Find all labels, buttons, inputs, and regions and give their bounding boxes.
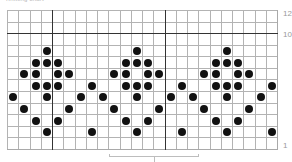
chart-cell <box>86 56 97 68</box>
chart-cell <box>176 114 187 126</box>
chart-cell <box>120 114 131 126</box>
chart-cell <box>165 22 176 34</box>
chart-cell <box>75 114 86 126</box>
chart-cell <box>7 114 18 126</box>
chart-cell <box>131 22 142 34</box>
chart-cell <box>30 68 41 80</box>
chart-cell <box>86 45 97 57</box>
chart-cell <box>165 79 176 91</box>
filled-circle-stitch-icon <box>245 70 253 78</box>
filled-circle-stitch-icon <box>133 59 141 67</box>
row-number-label: 12 <box>283 10 292 18</box>
chart-cell <box>153 68 164 80</box>
chart-cell <box>243 103 254 115</box>
chart-cell <box>108 68 119 80</box>
chart-cell <box>7 68 18 80</box>
chart-cell <box>97 33 108 45</box>
chart-cell <box>221 91 232 103</box>
chart-cell <box>210 91 221 103</box>
chart-cell <box>153 79 164 91</box>
chart-cell <box>176 68 187 80</box>
chart-cell <box>142 103 153 115</box>
chart-cell <box>97 56 108 68</box>
chart-cell <box>198 137 209 149</box>
chart-cell <box>210 126 221 138</box>
chart-cell <box>41 56 52 68</box>
chart-cell <box>232 22 243 34</box>
filled-circle-stitch-icon <box>20 70 28 78</box>
filled-circle-stitch-icon <box>189 93 197 101</box>
chart-cell <box>255 126 266 138</box>
filled-circle-stitch-icon <box>178 82 186 90</box>
filled-circle-stitch-icon <box>167 93 175 101</box>
chart-cell <box>7 33 18 45</box>
chart-cell <box>232 126 243 138</box>
chart-cell <box>97 68 108 80</box>
chart-cell <box>176 126 187 138</box>
chart-cell <box>243 91 254 103</box>
chart-cell <box>165 137 176 149</box>
filled-circle-stitch-icon <box>268 82 276 90</box>
chart-cell <box>165 126 176 138</box>
chart-cell <box>108 103 119 115</box>
chart-cell <box>255 114 266 126</box>
filled-circle-stitch-icon <box>155 70 163 78</box>
filled-circle-stitch-icon <box>223 128 231 136</box>
chart-cell <box>243 79 254 91</box>
chart-cell <box>63 45 74 57</box>
chart-cell <box>221 68 232 80</box>
filled-circle-stitch-icon <box>133 128 141 136</box>
chart-cell <box>52 56 63 68</box>
filled-circle-stitch-icon <box>77 93 85 101</box>
chart-cell <box>131 103 142 115</box>
chart-cell <box>142 68 153 80</box>
chart-cell <box>176 103 187 115</box>
chart-cell <box>41 33 52 45</box>
chart-cell <box>153 126 164 138</box>
chart-cell <box>30 103 41 115</box>
chart-cell <box>86 126 97 138</box>
chart-cell <box>63 137 74 149</box>
chart-cell <box>41 22 52 34</box>
chart-cell <box>86 103 97 115</box>
chart-cell <box>7 137 18 149</box>
chart-cell <box>142 56 153 68</box>
bold-vertical-line <box>165 10 166 150</box>
filled-circle-stitch-icon <box>54 70 62 78</box>
chart-cell <box>255 45 266 57</box>
chart-cell <box>221 126 232 138</box>
chart-cell <box>75 10 86 22</box>
chart-cell <box>198 68 209 80</box>
chart-cell <box>198 56 209 68</box>
filled-circle-stitch-icon <box>212 82 220 90</box>
chart-cell <box>210 22 221 34</box>
chart-cell <box>142 33 153 45</box>
chart-cell <box>142 10 153 22</box>
chart-cell <box>41 68 52 80</box>
chart-cell <box>266 126 277 138</box>
filled-circle-stitch-icon <box>43 59 51 67</box>
chart-cell <box>153 114 164 126</box>
chart-cell <box>52 10 63 22</box>
chart-cell <box>165 45 176 57</box>
filled-circle-stitch-icon <box>43 82 51 90</box>
chart-cell <box>187 137 198 149</box>
chart-cell <box>198 103 209 115</box>
chart-cell <box>97 103 108 115</box>
chart-cell <box>41 114 52 126</box>
chart-cell <box>221 45 232 57</box>
chart-cell <box>108 137 119 149</box>
chart-cell <box>210 114 221 126</box>
filled-circle-stitch-icon <box>144 59 152 67</box>
chart-cell <box>108 114 119 126</box>
chart-cell <box>120 68 131 80</box>
chart-cell <box>131 68 142 80</box>
chart-cell <box>198 126 209 138</box>
chart-cell <box>75 137 86 149</box>
chart-cell <box>165 103 176 115</box>
chart-cell <box>232 137 243 149</box>
chart-cell <box>165 10 176 22</box>
chart-cell <box>97 137 108 149</box>
chart-cell <box>7 103 18 115</box>
chart-cell <box>210 56 221 68</box>
